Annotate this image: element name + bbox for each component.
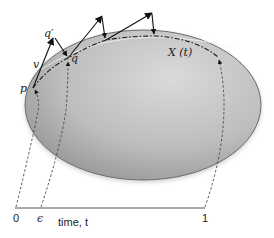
label-p: p — [20, 82, 27, 95]
label-X-t: X (t) — [167, 46, 192, 59]
tick-label-1: 1 — [202, 212, 208, 224]
axis-title-time: time, t — [58, 216, 88, 228]
manifold-flow-diagram: p v q′ q X (t) 0 ϵ time, t 1 — [0, 0, 274, 238]
label-v: v — [33, 58, 40, 71]
label-q: q — [71, 52, 78, 65]
tick-label-0: 0 — [13, 212, 19, 224]
tick-label-epsilon: ϵ — [37, 212, 43, 225]
manifold-surface — [25, 30, 261, 180]
label-q-prime: q′ — [44, 27, 54, 40]
